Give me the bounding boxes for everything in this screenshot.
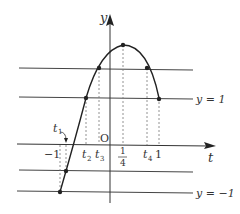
line-lower bbox=[19, 170, 193, 172]
t-axis bbox=[17, 144, 210, 146]
tick-t1-sub: 1 bbox=[58, 128, 62, 136]
origin-label: O bbox=[100, 132, 109, 145]
t-axis-label: t bbox=[208, 150, 214, 165]
line-upper bbox=[19, 68, 193, 70]
y-axis-label: y bbox=[99, 10, 108, 25]
point-minus-one bbox=[58, 190, 62, 194]
tick-t2-sub: 2 bbox=[87, 155, 91, 163]
point-t4 bbox=[145, 66, 149, 70]
tick-quarter-numerator: 1 bbox=[120, 146, 126, 156]
tick-t3-sub: 3 bbox=[100, 155, 104, 163]
tick-minus-one: −1 bbox=[44, 148, 60, 161]
point-t2 bbox=[84, 96, 88, 100]
line-y-equals-minus-1 bbox=[17, 191, 193, 193]
point-t1 bbox=[64, 169, 68, 173]
tick-quarter-denominator: 4 bbox=[120, 158, 126, 168]
t-axis-arrow-icon bbox=[204, 142, 216, 149]
y-equals-1-label: y = 1 bbox=[195, 93, 225, 106]
tick-one: 1 bbox=[155, 148, 162, 161]
point-t3 bbox=[97, 66, 101, 70]
y-equals-minus-1-label: y = −1 bbox=[195, 187, 235, 200]
vertex-point bbox=[121, 43, 125, 47]
point-one bbox=[157, 97, 161, 101]
t1-callout-arrowhead-icon bbox=[64, 138, 68, 143]
line-y-equals-1 bbox=[19, 97, 193, 99]
tick-t4-sub: 4 bbox=[148, 155, 153, 163]
parabola-diagram: y t O y = 1 y = −1 −1 t 1 t 2 t 3 1 4 t … bbox=[0, 0, 240, 214]
